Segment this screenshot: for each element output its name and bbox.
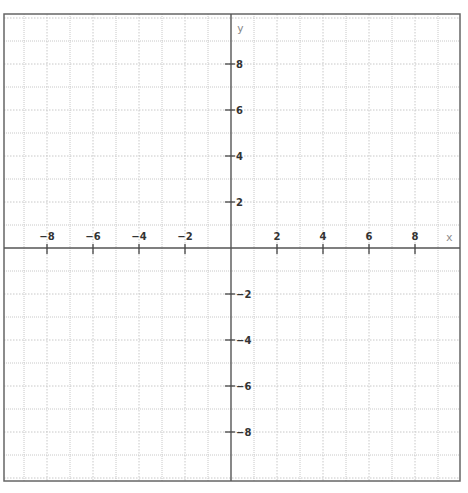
y-tick-label: 6 — [236, 105, 243, 116]
x-tick-label: 8 — [412, 231, 419, 242]
x-tick-label: −2 — [177, 231, 192, 242]
y-tick-label: 2 — [236, 197, 243, 208]
x-axis-label: x — [446, 231, 453, 244]
x-tick-label: −8 — [39, 231, 54, 242]
y-tick-label: 4 — [236, 151, 243, 162]
x-axis-ticks: −8−6−4−22468 — [39, 231, 418, 254]
coordinate-plane: −8−6−4−22468 8642−2−4−6−8 x y — [0, 0, 468, 493]
y-tick-label: 8 — [236, 59, 243, 70]
y-tick-label: −4 — [236, 335, 251, 346]
y-axis-label: y — [237, 22, 244, 35]
x-tick-label: −6 — [85, 231, 100, 242]
y-tick-label: −2 — [236, 289, 251, 300]
y-tick-label: −6 — [236, 381, 251, 392]
x-tick-label: 6 — [366, 231, 373, 242]
x-tick-label: 2 — [274, 231, 281, 242]
y-tick-label: −8 — [236, 427, 251, 438]
x-tick-label: −4 — [131, 231, 146, 242]
x-tick-label: 4 — [320, 231, 327, 242]
